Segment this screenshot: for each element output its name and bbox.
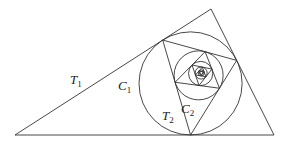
- label-c2: C2: [181, 102, 194, 118]
- incircle-c6: [200, 71, 203, 74]
- triangle-t1: [15, 9, 274, 135]
- label-t1: T1: [70, 73, 82, 89]
- label-t2: T2: [162, 109, 174, 125]
- nested-incircle-diagram: T1 C1 T2 C2: [0, 0, 286, 143]
- label-c1: C1: [118, 79, 131, 95]
- geometry-figure: [0, 0, 286, 143]
